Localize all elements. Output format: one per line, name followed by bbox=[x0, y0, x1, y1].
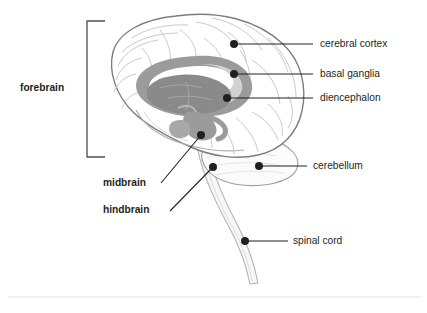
leader-dot-spinal-cord bbox=[241, 237, 249, 245]
leader-dot-diencephalon bbox=[223, 94, 231, 102]
label-cerebellum: cerebellum bbox=[313, 161, 363, 171]
label-hindbrain: hindbrain bbox=[103, 205, 149, 215]
label-midbrain: midbrain bbox=[103, 178, 146, 188]
leader-dot-cerebellum bbox=[255, 162, 263, 170]
label-cerebral-cortex: cerebral cortex bbox=[320, 39, 387, 49]
brain-diagram-figure: forebrain cerebral cortex basal ganglia … bbox=[0, 0, 427, 313]
leader-line-hindbrain bbox=[170, 167, 213, 211]
leader-dot-hindbrain bbox=[209, 163, 217, 171]
label-spinal-cord: spinal cord bbox=[293, 236, 342, 246]
leader-dot-basal-ganglia bbox=[230, 70, 238, 78]
label-basal-ganglia: basal ganglia bbox=[320, 69, 380, 79]
label-diencephalon: diencephalon bbox=[320, 93, 381, 103]
leader-dot-midbrain bbox=[197, 131, 205, 139]
forebrain-bracket bbox=[87, 21, 105, 157]
label-forebrain: forebrain bbox=[20, 83, 64, 93]
leader-dot-cerebral-cortex bbox=[230, 40, 238, 48]
